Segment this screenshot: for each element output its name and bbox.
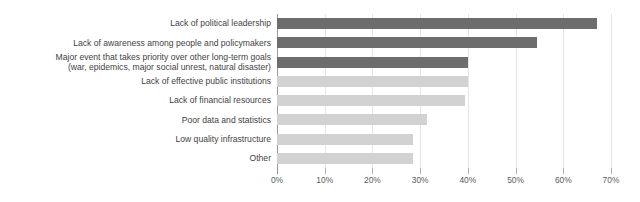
horizontal-bar-chart: Lack of political leadershipLack of awar… [0,0,640,202]
tick-label: 30% [412,175,429,185]
bar[interactable] [277,134,413,145]
tick-label: 10% [316,175,333,185]
bar[interactable] [277,95,465,106]
bar[interactable] [277,57,468,68]
tick-mark [468,168,469,174]
x-axis-tick-labels: 0%10%20%30%40%50%60%70% [277,175,611,189]
category-label-line: Other [250,153,272,164]
category-label: Low quality infrastructure [0,130,271,149]
category-label: Poor data and statistics [0,110,271,129]
category-label-line: Low quality infrastructure [175,134,271,145]
tick-label: 60% [555,175,572,185]
category-label: Lack of effective public institutions [0,72,271,91]
tick-mark [325,168,326,174]
bar[interactable] [277,37,537,48]
bar[interactable] [277,153,413,164]
bar-series [277,14,611,168]
category-label: Lack of financial resources [0,91,271,110]
bar-slot [277,72,468,91]
tick-mark [420,168,421,174]
category-label-line: Major event that takes priority over oth… [56,52,271,63]
tick-label: 20% [364,175,381,185]
bar[interactable] [277,114,427,125]
category-label-line: Lack of political leadership [170,18,271,29]
bar-slot [277,91,465,110]
category-label: Major event that takes priority over oth… [0,53,271,72]
bar-slot [277,53,468,72]
bar[interactable] [277,18,597,29]
tick-label: 70% [603,175,620,185]
category-label: Lack of political leadership [0,14,271,33]
bar-slot [277,130,413,149]
category-label-line: Lack of awareness among people and polic… [73,38,271,49]
category-label-line: Lack of financial resources [169,95,271,106]
bar-slot [277,33,537,52]
category-label-line: Lack of effective public institutions [141,76,271,87]
x-axis-tick-marks [277,168,611,174]
bar[interactable] [277,76,468,87]
tick-mark [372,168,373,174]
category-axis-labels: Lack of political leadershipLack of awar… [0,14,271,168]
plot-area [277,14,611,168]
tick-label: 40% [459,175,476,185]
bar-slot [277,110,427,129]
tick-mark [563,168,564,174]
tick-mark [277,168,278,174]
tick-label: 0% [271,175,283,185]
category-label-line: Poor data and statistics [182,115,271,126]
gridline [611,14,612,168]
bar-slot [277,149,413,168]
tick-mark [611,168,612,174]
tick-mark [516,168,517,174]
category-label: Lack of awareness among people and polic… [0,33,271,52]
category-label: Other [0,149,271,168]
bar-slot [277,14,597,33]
tick-label: 50% [507,175,524,185]
